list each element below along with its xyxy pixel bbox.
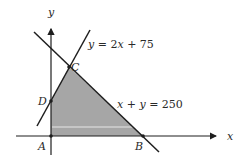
equation-label-line1: y = 2x + 75 [87, 38, 154, 51]
feasible-region-diagram: y x A B C D y = 2x + 75 x + y = 250 [0, 0, 248, 162]
equation-label-line2: x + y = 250 [117, 98, 183, 111]
x-axis-label: x [227, 130, 234, 143]
vertex-b-dot [141, 134, 145, 138]
vertex-a-dot [49, 134, 53, 138]
vertex-d-dot [49, 99, 53, 103]
vertex-a-label: A [37, 140, 46, 153]
y-axis-label: y [47, 6, 55, 19]
vertex-d-label: D [37, 95, 47, 108]
vertex-c-label: C [71, 61, 80, 74]
vertex-b-label: B [134, 140, 143, 153]
